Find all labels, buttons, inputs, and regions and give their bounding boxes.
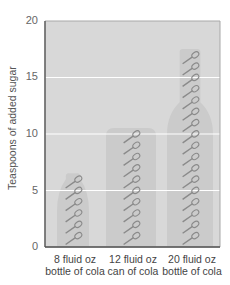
sugar-chart: Teaspoons of added sugar 20 15 10 5 0 8 …: [0, 0, 230, 285]
x-label-line: can of cola: [101, 265, 165, 277]
x-label-20oz-bottle: 20 fluid oz bottle of cola: [160, 253, 224, 277]
x-label-8oz-bottle: 8 fluid oz bottle of cola: [43, 253, 107, 277]
container-can: [106, 128, 156, 247]
y-tick-15: 15: [18, 70, 38, 82]
x-label-line: bottle of cola: [43, 265, 107, 277]
y-tick-20: 20: [18, 14, 38, 26]
y-tick-10: 10: [18, 127, 38, 139]
x-label-line: 20 fluid oz: [160, 253, 224, 265]
x-label-line: 8 fluid oz: [43, 253, 107, 265]
x-label-line: 12 fluid oz: [101, 253, 165, 265]
x-label-line: bottle of cola: [160, 265, 224, 277]
x-label-12oz-can: 12 fluid oz can of cola: [101, 253, 165, 277]
y-tick-5: 5: [18, 184, 38, 196]
y-tick-0: 0: [18, 240, 38, 252]
